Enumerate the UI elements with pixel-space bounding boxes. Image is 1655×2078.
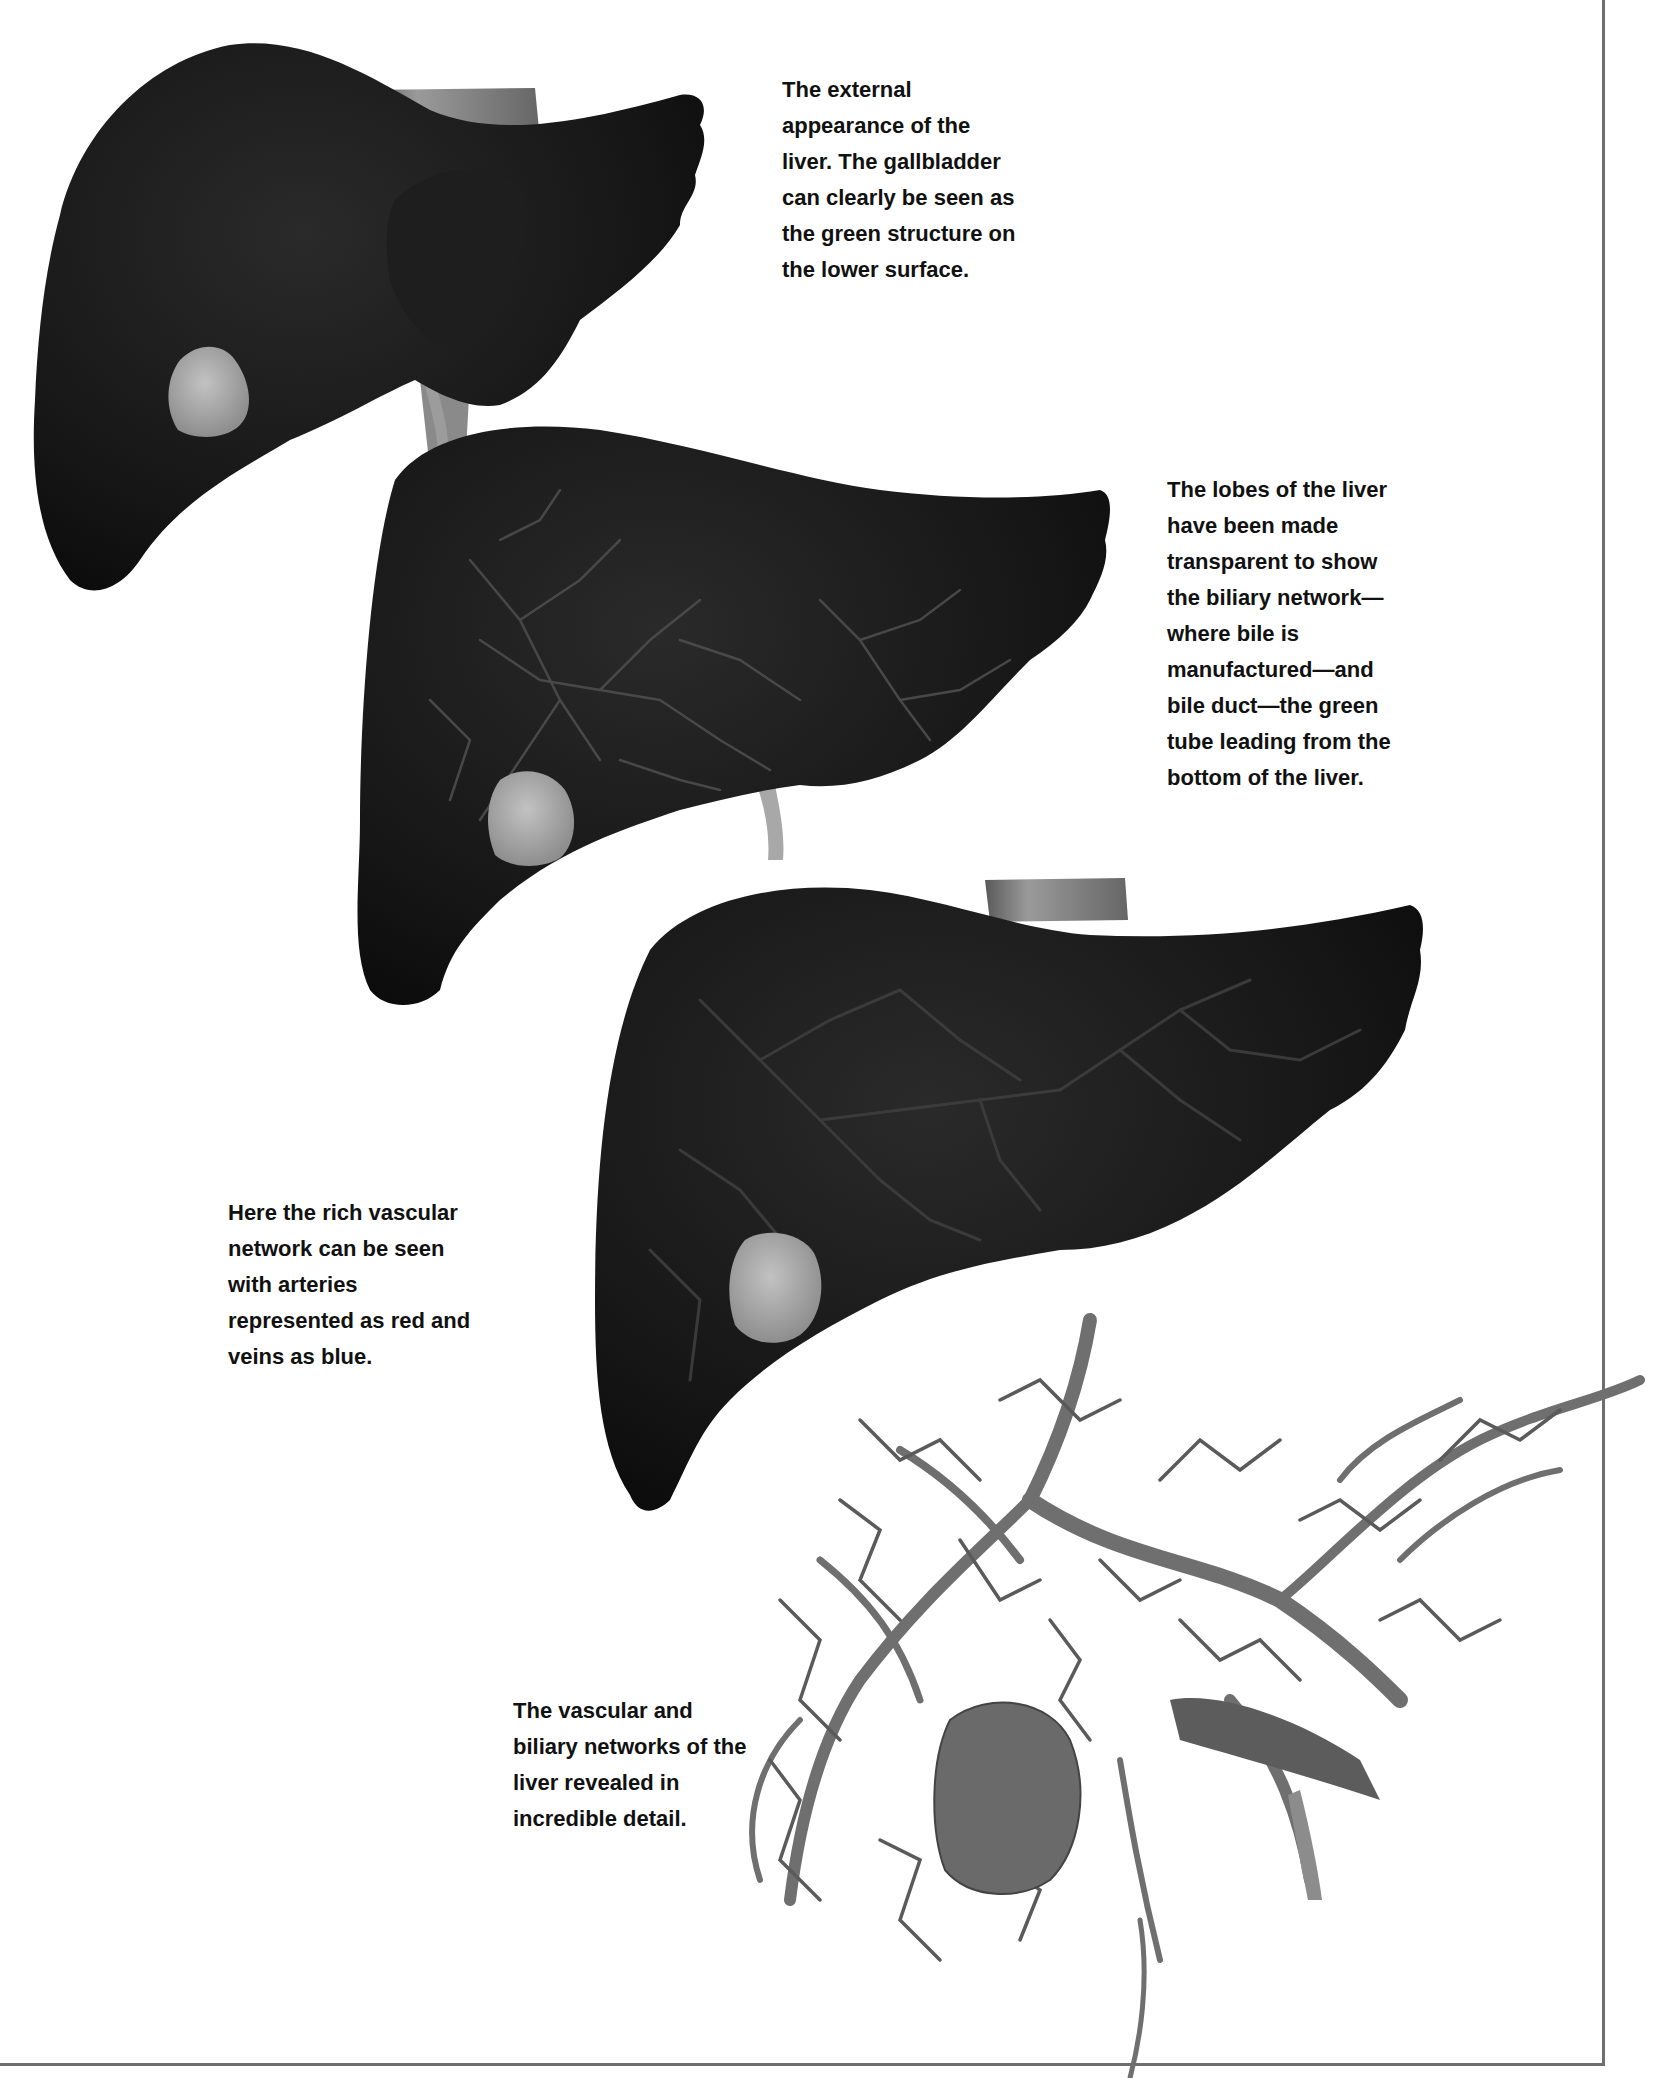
vena-cava (985, 878, 1128, 922)
caption-line: manufactured—and (1167, 652, 1391, 688)
caption-line: bottom of the liver. (1167, 760, 1391, 796)
caption-line: the biliary network— (1167, 580, 1391, 616)
caption-line: incredible detail. (513, 1801, 747, 1837)
caption-line: with arteries (228, 1267, 470, 1303)
gallbladder (729, 1233, 821, 1343)
liver-silhouette (595, 888, 1423, 1511)
caption-line: bile duct—the green (1167, 688, 1391, 724)
caption-line: where bile is (1167, 616, 1391, 652)
caption-vascular-network: Here the rich vascular network can be se… (228, 1195, 470, 1375)
caption-line: Here the rich vascular (228, 1195, 470, 1231)
book-page: ........................................… (0, 0, 1655, 2078)
caption-line: liver. The gallbladder (782, 144, 1015, 180)
gallbladder (934, 1703, 1080, 1894)
liver-networks-figure (752, 1320, 1640, 2078)
caption-line: appearance of the (782, 108, 1015, 144)
caption-line: tube leading from the (1167, 724, 1391, 760)
caption-line: have been made (1167, 508, 1391, 544)
caption-line: transparent to show (1167, 544, 1391, 580)
caption-line: The lobes of the liver (1167, 472, 1391, 508)
caption-line: veins as blue. (228, 1339, 470, 1375)
caption-biliary-network: The lobes of the liver have been made tr… (1167, 472, 1391, 796)
caption-line: biliary networks of the (513, 1729, 747, 1765)
caption-line: represented as red and (228, 1303, 470, 1339)
caption-vascular-biliary-networks: The vascular and biliary networks of the… (513, 1693, 747, 1837)
caption-line: network can be seen (228, 1231, 470, 1267)
portal-vein (1170, 1698, 1380, 1800)
caption-line: The vascular and (513, 1693, 747, 1729)
liver-vascular-figure (595, 878, 1423, 1511)
caption-line: liver revealed in (513, 1765, 747, 1801)
liver-illustrations (0, 0, 1655, 2078)
caption-line: can clearly be seen as (782, 180, 1015, 216)
bile-duct (758, 785, 783, 860)
caption-line: The external (782, 72, 1015, 108)
caption-line: the green structure on (782, 216, 1015, 252)
caption-external-liver: The external appearance of the liver. Th… (782, 72, 1015, 288)
bile-duct (1288, 1790, 1322, 1900)
caption-line: the lower surface. (782, 252, 1015, 288)
